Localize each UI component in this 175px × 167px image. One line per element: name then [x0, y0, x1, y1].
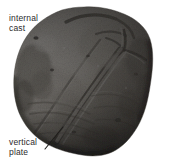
label-vertical-plate-line2: plate: [9, 148, 37, 158]
label-vertical-plate-line1: vertical: [9, 137, 37, 147]
label-vertical-plate: vertical plate: [9, 138, 37, 157]
figure-container: internal cast vertical plate: [0, 0, 175, 167]
label-internal-cast-line2: cast: [9, 24, 38, 34]
label-internal-cast: internal cast: [9, 14, 38, 33]
label-internal-cast-line1: internal: [9, 13, 38, 23]
